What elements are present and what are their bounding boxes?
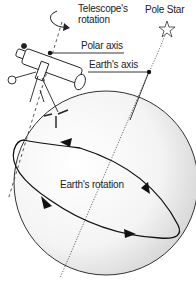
earths-axis-label: Earth's axis [89, 60, 138, 70]
earths-rotation-label: Earth's rotation [60, 180, 124, 190]
diagram-canvas: Telescope's rotation Pole Star Polar axi… [0, 0, 196, 281]
telescope-rotation-line1: Telescope's [78, 4, 128, 14]
telescope-rotation-line2: rotation [78, 15, 128, 25]
telescope-rotation-label: Telescope's rotation [78, 4, 128, 25]
pole-star-label: Pole Star [145, 5, 184, 15]
pole-star-icon [159, 21, 175, 37]
polar-axis-label: Polar axis [81, 41, 123, 51]
